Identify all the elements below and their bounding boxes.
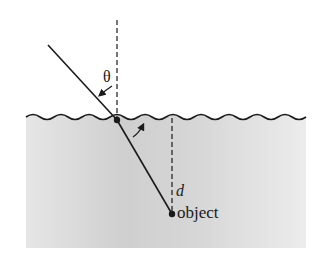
refraction-diagram xyxy=(0,0,316,260)
theta-label: θ xyxy=(103,68,111,86)
object-label: object xyxy=(177,203,219,223)
water-region xyxy=(26,115,306,249)
depth-label: d xyxy=(176,182,184,200)
object-point xyxy=(169,211,175,217)
theta-arrow-icon xyxy=(100,86,112,95)
interface-point xyxy=(114,117,120,123)
